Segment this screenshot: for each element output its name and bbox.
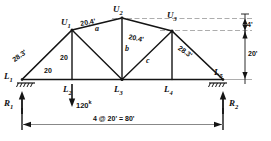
span-arrow-head-right [214,122,222,127]
span-arrow-head-left [23,122,31,127]
joint-dot-U1 [71,29,74,32]
joint-label-L4: L4 [164,85,173,96]
member-label-c: c [146,57,150,65]
joint-label-U1: U1 [61,18,71,29]
length-label-U1-L2: 20 [60,54,68,61]
load-label-120k: 120k [76,100,92,109]
truss-diagram: L1 L2 L3 L4 L5 U1 U2 U3 a b c 28.3' 20.4… [0,0,271,141]
reaction-arrow-head-R2 [220,91,226,100]
joint-label-L2: L2 [63,85,72,96]
member-label-a: a [95,25,99,33]
joint-label-U2: U2 [113,5,123,16]
joint-label-L5: L5 [214,68,223,79]
joint-dot-L3 [121,78,124,81]
dim-20ft-arrow-up [242,32,247,39]
span-dimension-label: 4 @ 20' = 80' [93,115,135,122]
length-label-L1-L2: 20 [44,67,52,74]
joint-dot-L1 [21,78,24,81]
support-pin-L1 [17,83,36,87]
truss-geometry-svg [0,0,271,141]
reaction-label-R1: R1 [4,99,13,110]
joint-label-U3: U3 [167,11,177,22]
member-label-b: b [125,45,129,53]
dimension-label-4ft: 4' [247,21,253,28]
member-U2-U3 [122,18,172,31]
dimension-label-20ft: 20' [248,50,257,57]
support-pin-L5 [209,83,228,87]
load-arrow-head-L2 [69,99,75,108]
member-U1-L3 [72,30,122,80]
joint-label-L3: L3 [114,85,123,96]
reaction-label-R2: R2 [229,99,238,110]
dim-20ft-arrow-down [242,72,247,79]
joint-label-L1: L1 [4,72,13,83]
joint-dot-U3 [170,29,173,32]
truss-members [22,18,223,80]
reaction-arrow-head-R1 [19,91,25,100]
